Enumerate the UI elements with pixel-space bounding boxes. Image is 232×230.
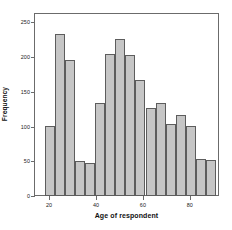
y-tick-mark — [31, 196, 35, 197]
histogram-bar — [65, 60, 75, 196]
y-tick-label: 50 — [24, 158, 30, 164]
x-tick-mark — [143, 196, 144, 200]
y-tick-label: 0 — [27, 193, 30, 199]
x-tick-label: 80 — [187, 202, 193, 208]
histogram-bar — [206, 160, 216, 196]
histogram-bar — [135, 80, 145, 196]
x-tick-mark — [49, 196, 50, 200]
histogram-bar — [166, 124, 176, 196]
histogram-bar — [55, 34, 65, 196]
x-tick-label: 20 — [46, 202, 52, 208]
y-tick-mark — [31, 22, 35, 23]
histogram-bar — [186, 126, 196, 196]
histogram-bar — [45, 126, 55, 196]
histogram-bar — [115, 39, 125, 196]
y-tick-label: 100 — [21, 124, 30, 130]
y-tick-label: 250 — [21, 19, 30, 25]
histogram-bar — [156, 103, 166, 196]
x-tick-mark — [190, 196, 191, 200]
y-tick-mark — [31, 127, 35, 128]
x-axis-title: Age of respondent — [34, 212, 219, 219]
bars-layer: 05010015020025020406080 — [35, 14, 218, 196]
y-axis-title: Frequency — [1, 87, 8, 121]
histogram-chart: 05010015020025020406080 Frequency Age of… — [0, 0, 232, 230]
histogram-bar — [125, 55, 135, 196]
y-tick-label: 200 — [21, 54, 30, 60]
histogram-bar — [146, 108, 156, 196]
y-tick-mark — [31, 161, 35, 162]
histogram-bar — [196, 159, 206, 197]
x-tick-mark — [96, 196, 97, 200]
histogram-bar — [105, 54, 115, 196]
y-tick-label: 150 — [21, 89, 30, 95]
y-tick-mark — [31, 92, 35, 93]
histogram-bar — [176, 115, 186, 196]
histogram-bar — [95, 103, 105, 196]
x-tick-label: 40 — [93, 202, 99, 208]
x-tick-label: 60 — [140, 202, 146, 208]
histogram-bar — [75, 161, 85, 196]
y-tick-mark — [31, 57, 35, 58]
histogram-bar — [85, 163, 95, 196]
